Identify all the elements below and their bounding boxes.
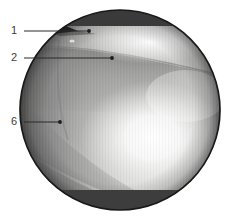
bottom-letterbox-band (20, 190, 220, 211)
rim-vignette (20, 10, 220, 210)
callout-1-number: 1 (11, 24, 17, 36)
figure-root: 1 2 6 (0, 0, 235, 219)
callout-6-number: 6 (11, 115, 17, 127)
callout-2-number: 2 (11, 51, 17, 63)
callout-6-leader-dot (58, 120, 62, 124)
field-of-view-content (20, 9, 226, 211)
callout-2-leader-dot (110, 56, 114, 60)
callout-1-leader-dot (87, 29, 91, 33)
field-of-view (20, 9, 226, 211)
top-letterbox-band (20, 9, 220, 26)
endoscopic-figure: 1 2 6 (0, 0, 235, 219)
